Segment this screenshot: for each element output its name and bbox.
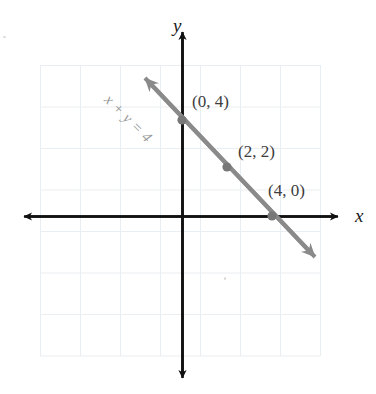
graph-canvas (0, 0, 376, 394)
plotted-points (177, 115, 276, 220)
point-2-2 (222, 162, 231, 171)
y-axis-label: y (173, 16, 181, 35)
point-label-4-0: (4, 0) (268, 182, 305, 199)
point-label-0-4: (0, 4) (192, 93, 229, 110)
coordinate-plane-figure: y x (0, 4) (2, 2) (4, 0) x + y = 4 (0, 0, 376, 394)
point-0-4 (177, 115, 186, 124)
paper-speck (3, 36, 6, 38)
point-4-0 (267, 211, 276, 220)
point-label-2-2: (2, 2) (238, 143, 275, 160)
paper-speck (224, 277, 226, 280)
grid-lines (40, 65, 321, 356)
x-axis-label: x (355, 206, 363, 225)
